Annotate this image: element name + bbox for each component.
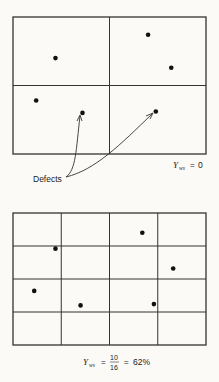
yield-label-small: Y ws = 10 16 = 62%	[83, 354, 150, 371]
defect-dot	[140, 231, 145, 236]
defect-dot	[152, 302, 157, 307]
yield-subscript: ws	[179, 165, 185, 171]
defect-dot	[146, 33, 151, 38]
defect-dot	[53, 56, 58, 61]
defect-dot	[34, 98, 39, 103]
yield-equals-2: =	[124, 358, 129, 367]
yield-label-large: Y ws = 0	[173, 160, 203, 171]
defect-dot	[32, 289, 37, 294]
yield-value: 0	[198, 160, 203, 170]
small-die-panel	[13, 213, 206, 345]
defects-label: Defects	[33, 174, 62, 184]
yield-numerator: 10	[110, 354, 118, 361]
defect-dot	[154, 109, 159, 114]
wafer-yield-diagram: Defects Y ws = 0 Y ws = 10 16 = 62%	[0, 0, 219, 382]
defect-dots	[32, 231, 176, 308]
grid-lines	[13, 213, 206, 345]
yield-denominator: 16	[110, 364, 118, 371]
yield-equals: =	[101, 358, 106, 367]
yield-equals: =	[190, 161, 195, 170]
defect-dot	[80, 111, 85, 116]
yield-value: 62%	[133, 357, 150, 367]
yield-subscript: ws	[89, 362, 95, 368]
large-die-panel	[13, 17, 206, 154]
arrow-to-defect-1	[66, 116, 80, 177]
grid-lines	[13, 17, 206, 154]
defect-dot	[78, 303, 83, 308]
defect-dot	[171, 266, 176, 271]
defect-dot	[53, 246, 58, 251]
defect-dot	[169, 65, 174, 70]
defect-dots	[34, 33, 174, 116]
